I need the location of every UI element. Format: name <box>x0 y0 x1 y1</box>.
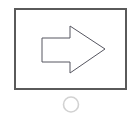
handle-circle[interactable] <box>64 97 79 112</box>
shape-scene <box>0 0 139 116</box>
drawing-canvas <box>0 0 139 116</box>
